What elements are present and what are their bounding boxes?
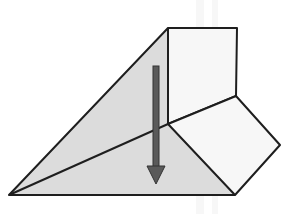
wedge-block-diagram — [0, 0, 298, 214]
